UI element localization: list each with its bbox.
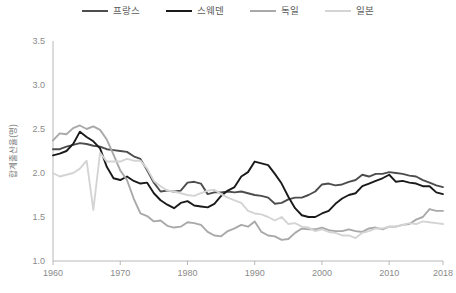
x-tick-label: 1990: [245, 268, 265, 278]
y-axis-title: 합계출산율(명): [8, 124, 18, 178]
data-series-group: [53, 125, 443, 239]
x-tick-label: 2000: [312, 268, 332, 278]
y-tick-label: 3.0: [32, 80, 45, 90]
x-tick-label: 1960: [43, 268, 63, 278]
y-tick-label: 2.0: [32, 168, 45, 178]
y-axis-tick-labels: 1.01.52.02.53.03.5: [32, 36, 45, 266]
x-axis-tick-labels: 1960197019801990200020102018: [43, 261, 453, 278]
y-tick-label: 1.0: [32, 256, 45, 266]
y-tick-label: 2.5: [32, 124, 45, 134]
series-line-japan: [53, 153, 443, 238]
y-tick-label: 3.5: [32, 36, 45, 46]
y-tick-label: 1.5: [32, 212, 45, 222]
fertility-rate-chart: 프랑스스웨덴독일일본 1.01.52.02.53.03.5 1960197019…: [0, 0, 456, 293]
x-tick-label: 2018: [433, 268, 453, 278]
x-tick-label: 1970: [110, 268, 130, 278]
x-tick-label: 1980: [177, 268, 197, 278]
y-axis-title-text: 합계출산율(명): [8, 124, 18, 178]
x-tick-label: 2010: [379, 268, 399, 278]
series-line-germany: [53, 125, 443, 239]
chart-plot-area: 1.01.52.02.53.03.5 196019701980199020002…: [0, 0, 456, 293]
